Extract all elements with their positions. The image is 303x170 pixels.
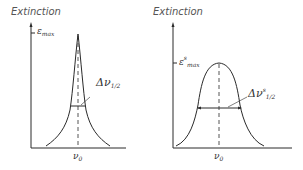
width-subscript: 1/2 <box>266 93 276 100</box>
left-ymax-label: εmax <box>37 26 55 37</box>
right-broad-peak-curve <box>176 63 264 146</box>
right-axes <box>172 22 293 148</box>
width-subscript: 1/2 <box>111 82 121 89</box>
ymax-subscript: max <box>187 61 200 68</box>
width-symbol: Δν <box>96 76 111 89</box>
right-leader-line <box>228 97 247 107</box>
right-center-label: ν0 <box>214 151 223 162</box>
center-subscript: 0 <box>219 155 223 162</box>
left-width-label: Δν1/2 <box>96 76 120 89</box>
left-center-label: ν0 <box>73 151 82 162</box>
right-title: Extinction <box>153 6 203 17</box>
width-superscript: s <box>263 86 266 93</box>
right-ymax-label: εsmax <box>179 57 200 68</box>
center-subscript: 0 <box>78 155 82 162</box>
left-title: Extinction <box>11 6 61 17</box>
ymax-superscript: s <box>184 54 187 61</box>
width-symbol: Δν <box>248 87 263 100</box>
right-width-label: Δνs1/2 <box>248 87 275 100</box>
ymax-subscript: max <box>42 30 55 37</box>
